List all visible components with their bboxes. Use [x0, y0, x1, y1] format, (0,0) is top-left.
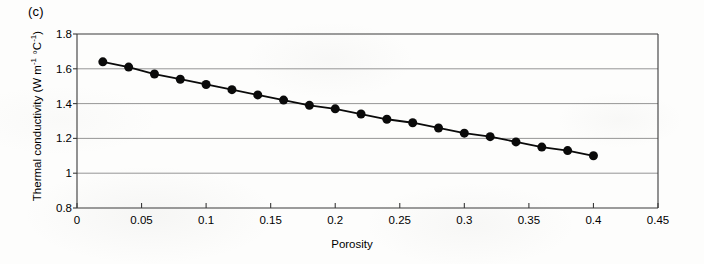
axis-frame [77, 34, 658, 208]
gridlines [77, 69, 658, 173]
data-series-markers [98, 57, 598, 160]
x-axis-title: Porosity [0, 238, 704, 250]
plot-area [0, 0, 704, 264]
figure-panel-c: (c) Thermal conductivity (W m-1 °C-1) 0.… [0, 0, 704, 264]
tick-marks [73, 34, 658, 208]
